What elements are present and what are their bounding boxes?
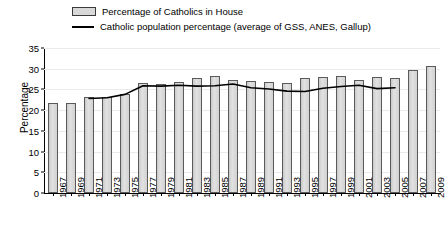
x-axis-tick-mark — [413, 193, 414, 196]
x-axis-tick-label: 1991 — [273, 177, 284, 198]
x-axis-tick-mark — [287, 193, 288, 196]
x-axis-tick-label: 1967 — [57, 177, 68, 198]
x-axis-tick-label: 1987 — [237, 177, 248, 198]
x-axis-tick-label: 1973 — [111, 177, 122, 198]
x-axis-tick-mark — [431, 193, 432, 196]
x-axis-tick-mark — [395, 193, 396, 196]
x-axis-tick-label: 1995 — [309, 177, 320, 198]
catholic-population-line — [89, 84, 395, 99]
x-axis-tick-mark — [89, 193, 90, 196]
x-axis-tick-mark — [125, 193, 126, 196]
x-axis-tick-label: 1981 — [183, 177, 194, 198]
x-axis-tick-mark — [143, 193, 144, 196]
legend-label-line: Catholic population percentage (average … — [100, 19, 371, 34]
x-axis-tick-mark — [107, 193, 108, 196]
x-axis-tick-mark — [71, 193, 72, 196]
x-axis-tick-label: 1975 — [129, 177, 140, 198]
chart-legend: Percentage of Catholics in House Catholi… — [72, 4, 432, 34]
x-axis-tick-label: 1977 — [147, 177, 158, 198]
x-axis-tick-mark — [53, 193, 54, 196]
x-axis-tick-label: 2007 — [417, 177, 428, 198]
x-axis-tick-mark — [377, 193, 378, 196]
x-axis-tick-label: 1999 — [345, 177, 356, 198]
line-series — [44, 48, 440, 193]
x-axis-tick-label: 1989 — [255, 177, 266, 198]
x-axis-tick-mark — [341, 193, 342, 196]
x-axis-tick-label: 2009 — [435, 177, 446, 198]
x-axis-tick-label: 1979 — [165, 177, 176, 198]
x-axis-tick-mark — [359, 193, 360, 196]
x-axis-tick-mark — [197, 193, 198, 196]
legend-item-bars: Percentage of Catholics in House — [72, 4, 432, 19]
x-axis-tick-label: 1997 — [327, 177, 338, 198]
x-axis-tick-mark — [323, 193, 324, 196]
x-axis-tick-label: 1993 — [291, 177, 302, 198]
x-axis-tick-mark — [215, 193, 216, 196]
x-axis-tick-label: 2001 — [363, 177, 374, 198]
x-axis-tick-mark — [179, 193, 180, 196]
bar-swatch-icon — [72, 7, 96, 16]
plot-area: 05101520253035 — [44, 48, 440, 193]
line-swatch-icon — [72, 26, 94, 28]
x-axis-tick-label: 1983 — [201, 177, 212, 198]
x-axis-tick-label: 2003 — [381, 177, 392, 198]
x-axis-tick-mark — [233, 193, 234, 196]
x-axis-tick-label: 1985 — [219, 177, 230, 198]
x-axis-tick-label: 1969 — [75, 177, 86, 198]
x-axis-tick-mark — [161, 193, 162, 196]
legend-item-line: Catholic population percentage (average … — [72, 19, 432, 34]
x-axis-tick-mark — [251, 193, 252, 196]
x-axis-tick-label: 2005 — [399, 177, 410, 198]
x-axis-tick-mark — [305, 193, 306, 196]
x-axis-tick-mark — [269, 193, 270, 196]
x-axis-tick-label: 1971 — [93, 177, 104, 198]
legend-label-bars: Percentage of Catholics in House — [102, 4, 243, 19]
